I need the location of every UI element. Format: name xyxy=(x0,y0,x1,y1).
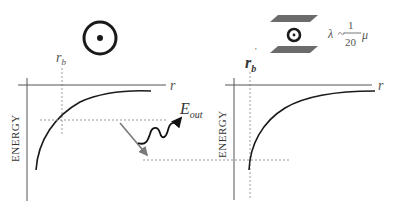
energy-curve xyxy=(36,91,151,170)
rb-prime-label: rb xyxy=(245,54,256,74)
confined-particle-icon xyxy=(288,29,300,41)
prime-mark: ' xyxy=(255,46,257,56)
top-plate-icon xyxy=(270,15,318,22)
transition-arrow xyxy=(120,123,147,155)
right-panel: λ ~ 1 20 μ rb ' r ENERGY xyxy=(216,15,384,200)
left-panel: rb r ENERGY Eout xyxy=(9,22,290,201)
e-out-label: Eout xyxy=(179,100,203,120)
svg-text:μ: μ xyxy=(361,28,368,42)
r-axis-label: r xyxy=(378,78,384,93)
formula: λ ~ 1 20 μ xyxy=(327,19,368,48)
r-axis-label: r xyxy=(170,78,176,93)
photon-wavy-arrow xyxy=(138,118,181,144)
rb-label: rb xyxy=(56,50,66,67)
energy-diagram: rb r ENERGY Eout xyxy=(0,0,396,210)
svg-text:1: 1 xyxy=(348,19,354,31)
energy-curve xyxy=(249,91,375,170)
svg-text:λ: λ xyxy=(327,27,333,41)
bottom-plate-icon xyxy=(270,46,318,53)
energy-axis-label: ENERGY xyxy=(216,110,228,158)
particle-circle-icon xyxy=(84,22,116,54)
energy-axis-label: ENERGY xyxy=(9,114,21,162)
svg-text:20: 20 xyxy=(345,36,357,48)
svg-text:~: ~ xyxy=(338,27,345,41)
